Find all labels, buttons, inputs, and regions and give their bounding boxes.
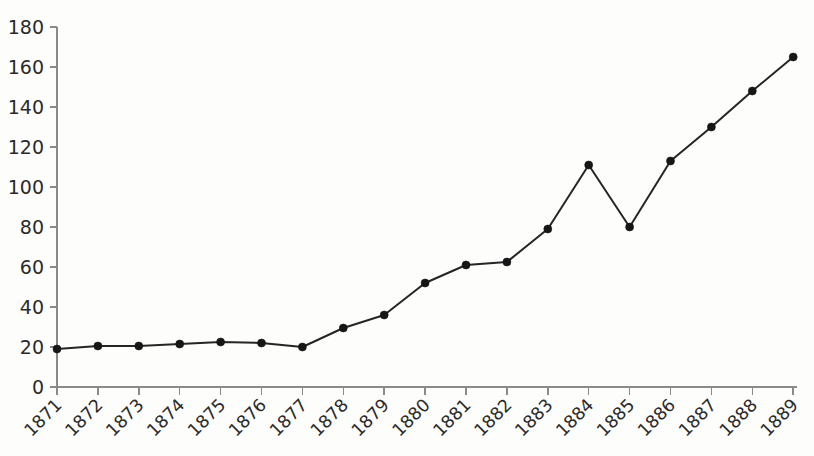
x-axis-tick-label: 1873 bbox=[102, 395, 148, 441]
x-axis-tick-label: 1871 bbox=[20, 395, 66, 441]
x-axis-tick-label: 1885 bbox=[593, 395, 639, 441]
data-point-marker bbox=[707, 123, 715, 131]
x-axis-tick-label: 1877 bbox=[266, 395, 312, 441]
data-point-marker bbox=[339, 324, 347, 332]
x-axis-tick-label: 1882 bbox=[470, 395, 516, 441]
x-axis-tick-label: 1876 bbox=[225, 395, 271, 441]
line-chart: 020406080100120140160180 187118721873187… bbox=[0, 0, 814, 456]
x-axis-tick-label: 1872 bbox=[61, 395, 107, 441]
data-point-marker bbox=[544, 225, 552, 233]
data-point-marker bbox=[585, 161, 593, 169]
x-axis-tick-label: 1884 bbox=[552, 395, 598, 441]
data-point-marker bbox=[667, 157, 675, 165]
data-point-marker bbox=[789, 53, 797, 61]
x-axis-tick-label: 1875 bbox=[184, 395, 230, 441]
x-axis-tick-label: 1878 bbox=[306, 395, 352, 441]
y-axis-tick-label: 100 bbox=[8, 176, 44, 198]
data-point-marker bbox=[94, 342, 102, 350]
data-point-marker bbox=[748, 87, 756, 95]
y-axis-tick-label: 160 bbox=[8, 56, 44, 78]
x-axis: 1871187218731874187518761877187818791880… bbox=[20, 387, 802, 440]
chart-canvas: 020406080100120140160180 187118721873187… bbox=[0, 0, 814, 456]
y-axis-tick-label: 140 bbox=[8, 96, 44, 118]
x-axis-tick-label: 1886 bbox=[634, 395, 680, 441]
data-point-marker bbox=[53, 345, 61, 353]
x-axis-tick-label: 1880 bbox=[388, 395, 434, 441]
x-axis-tick-label: 1888 bbox=[715, 395, 761, 441]
x-axis-tick-label: 1887 bbox=[675, 395, 721, 441]
data-point-marker bbox=[217, 338, 225, 346]
x-axis-tick-label: 1874 bbox=[143, 395, 189, 441]
data-point-marker bbox=[462, 261, 470, 269]
data-point-marker bbox=[258, 339, 266, 347]
x-axis-tick-label: 1883 bbox=[511, 395, 557, 441]
y-axis-tick-label: 0 bbox=[32, 376, 44, 398]
y-axis-tick-label: 60 bbox=[20, 256, 44, 278]
data-point-marker bbox=[421, 279, 429, 287]
x-axis-tick-label: 1889 bbox=[756, 395, 802, 441]
y-axis: 020406080100120140160180 bbox=[8, 16, 57, 398]
data-point-marker bbox=[626, 223, 634, 231]
data-point-marker bbox=[176, 340, 184, 348]
y-axis-tick-label: 40 bbox=[20, 296, 44, 318]
y-axis-tick-label: 180 bbox=[8, 16, 44, 38]
data-point-marker bbox=[298, 343, 306, 351]
data-point-marker bbox=[503, 258, 511, 266]
data-point-marker bbox=[135, 342, 143, 350]
y-axis-tick-label: 80 bbox=[20, 216, 44, 238]
x-axis-tick-label: 1879 bbox=[347, 395, 393, 441]
y-axis-tick-label: 20 bbox=[20, 336, 44, 358]
series-line bbox=[57, 57, 793, 349]
y-axis-tick-label: 120 bbox=[8, 136, 44, 158]
data-series bbox=[53, 53, 797, 353]
x-axis-tick-label: 1881 bbox=[429, 395, 475, 441]
data-point-marker bbox=[380, 311, 388, 319]
